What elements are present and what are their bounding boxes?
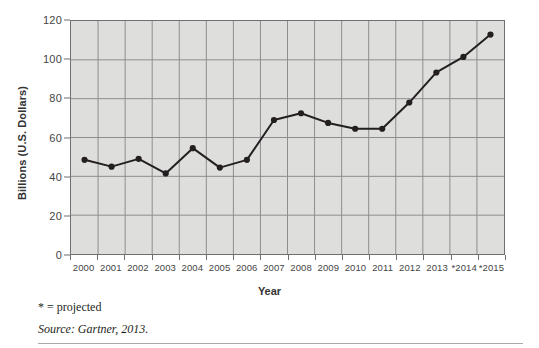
source-note: Source: Gartner, 2013. <box>38 322 148 337</box>
x-axis-tick-label: 2006 <box>236 262 258 273</box>
y-axis-tick-label: 60 <box>49 132 62 144</box>
x-axis-tick-mark <box>342 255 343 260</box>
bottom-divider <box>38 343 523 344</box>
data-series-line <box>71 21 504 254</box>
y-axis-tick-label: 80 <box>49 92 62 104</box>
x-axis-tick-label: *2014 <box>452 262 477 273</box>
x-axis-tick-label: 2003 <box>154 262 176 273</box>
x-axis-tick-label: 2011 <box>372 262 393 273</box>
x-axis-tick-mark <box>233 255 234 260</box>
x-axis-tick-mark <box>152 255 153 260</box>
x-axis-tick-mark <box>423 255 424 260</box>
x-axis-tick-mark <box>288 255 289 260</box>
x-axis-tick-mark <box>396 255 397 260</box>
x-axis-tick-label: 2013 <box>426 262 448 273</box>
x-axis-tick-label: 2004 <box>182 262 204 273</box>
x-axis-tick-mark <box>315 255 316 260</box>
x-axis-title: Year <box>0 285 539 297</box>
chart-figure: Billions (U.S. Dollars) 020406080100120 … <box>0 0 539 348</box>
y-axis-tick-label: 20 <box>49 210 62 222</box>
x-axis-tick-label: 2010 <box>345 262 367 273</box>
x-axis-tick-mark <box>478 255 479 260</box>
x-axis-tick-mark <box>505 255 506 260</box>
x-axis-tick-label: 2012 <box>399 262 421 273</box>
y-axis-tick-label: 40 <box>49 171 62 183</box>
x-axis-tick-label: 2005 <box>209 262 231 273</box>
x-axis-tick-mark <box>179 255 180 260</box>
footnote-projected: * = projected <box>38 300 101 315</box>
y-axis-tick-label: 100 <box>43 53 62 65</box>
x-axis-tick-mark <box>260 255 261 260</box>
y-axis-tick-label: 0 <box>56 249 62 261</box>
x-axis-tick-label: 2009 <box>318 262 340 273</box>
x-axis-tick-label: 2002 <box>127 262 149 273</box>
x-axis-tick-mark <box>97 255 98 260</box>
x-axis-tick-label: 2007 <box>263 262 285 273</box>
x-axis-tick-label: 2001 <box>100 262 122 273</box>
x-axis-tick-label: 2008 <box>290 262 312 273</box>
x-axis-tick-mark <box>124 255 125 260</box>
x-axis-tick-mark <box>369 255 370 260</box>
x-axis-tick-label: *2015 <box>479 262 504 273</box>
plot-area <box>70 20 505 255</box>
x-axis-tick-mark <box>206 255 207 260</box>
x-axis-tick-label: 2000 <box>73 262 95 273</box>
y-axis-tick-label: 120 <box>43 14 62 26</box>
x-axis-tick-mark <box>70 255 71 260</box>
x-axis-tick-mark <box>451 255 452 260</box>
